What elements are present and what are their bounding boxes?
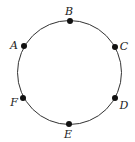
label-d: D (119, 99, 129, 112)
point-e (66, 121, 72, 127)
label-b: B (64, 5, 73, 18)
circle-diagram: B C D E F A (0, 0, 135, 142)
point-c (112, 44, 118, 50)
circle (18, 21, 122, 125)
point-a (21, 43, 27, 49)
point-b (67, 18, 73, 24)
label-c: C (120, 40, 129, 53)
label-e: E (63, 128, 72, 141)
point-d (112, 95, 118, 101)
label-f: F (9, 96, 18, 109)
point-f (20, 95, 26, 101)
label-a: A (9, 39, 18, 52)
